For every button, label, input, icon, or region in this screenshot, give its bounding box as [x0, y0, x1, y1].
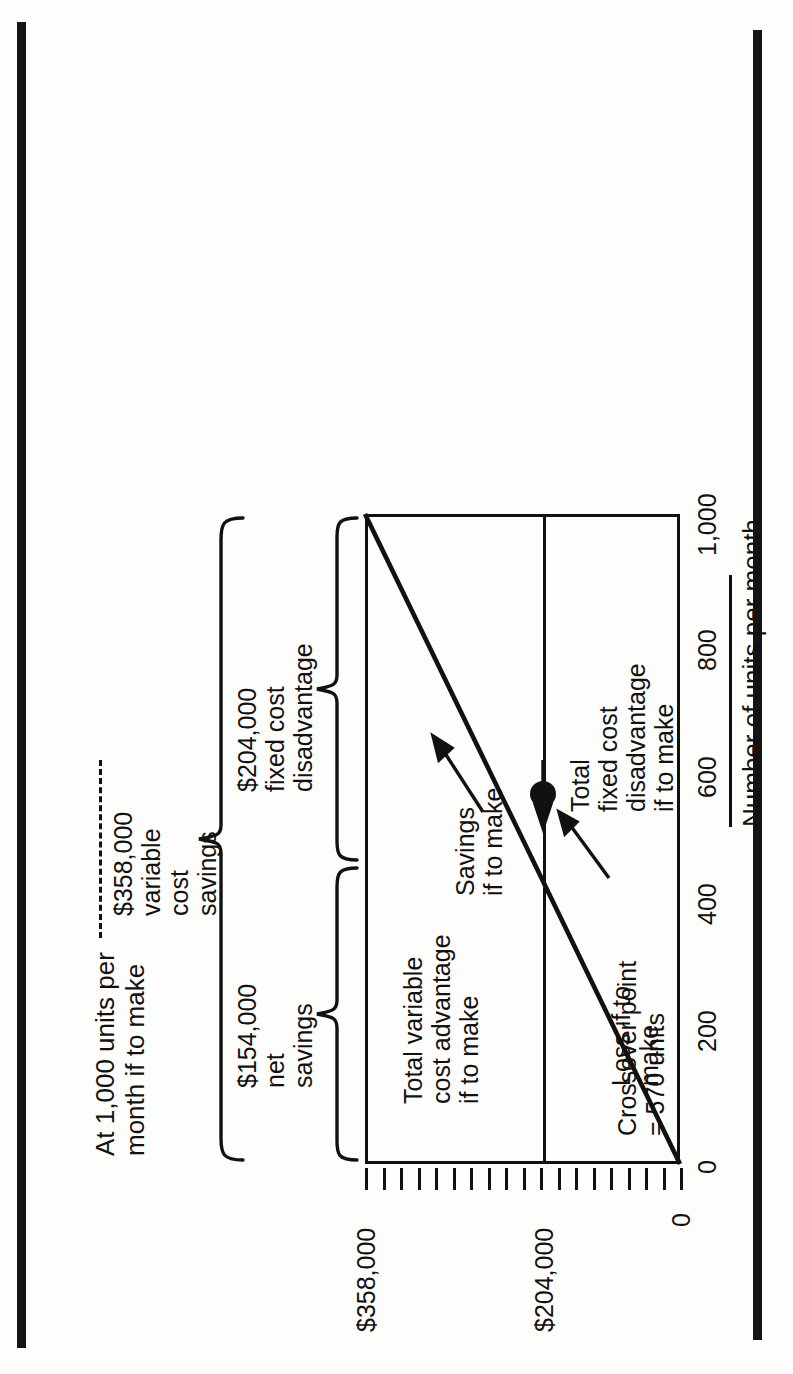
dollar-axis-tick	[540, 1168, 543, 1190]
dollar-axis-tick	[680, 1168, 683, 1190]
brace-fixed-label-line-1: $204,000	[233, 643, 261, 792]
annotation-loss-line-1: Loss if to	[607, 986, 635, 1086]
brace-total-label-line-4: savings	[193, 812, 221, 916]
dollar-axis-tick	[452, 1168, 455, 1190]
x-tick-label-800: 800	[695, 629, 720, 671]
dollar-axis-tick	[435, 1168, 438, 1190]
annotation-loss-line-2: make	[635, 986, 663, 1086]
brace-total-label-line-1: $358,000	[109, 812, 137, 916]
brace-net-label-line-2: net	[261, 984, 289, 1088]
dollar-axis-tick	[470, 1168, 473, 1190]
scan-edge-bar-left	[17, 22, 26, 1348]
dollar-axis-tick	[662, 1168, 665, 1190]
dollar-axis-tick	[400, 1168, 403, 1190]
annotation-tfcd-line-3: disadvantage	[622, 663, 650, 812]
header-note-dashed-leader	[99, 760, 102, 938]
dollar-axis-tick-rail	[365, 1168, 680, 1198]
dollar-axis-tick	[575, 1168, 578, 1190]
brace-fixed-label: $204,000 fixed cost disadvantage	[233, 643, 317, 792]
dollar-axis-tick	[522, 1168, 525, 1190]
brace-net-label-line-1: $154,000	[233, 984, 261, 1088]
dollar-axis-tick	[417, 1168, 420, 1190]
x-tick-label-200: 200	[695, 1010, 720, 1052]
x-tick-label-400: 400	[695, 883, 720, 925]
brace-fixed-cost-disadvantage	[315, 514, 359, 864]
x-tick-label-600: 600	[695, 756, 720, 798]
header-note: At 1,000 units per month if to make	[91, 952, 151, 1156]
brace-net-label-line-3: savings	[289, 984, 317, 1088]
dollar-axis-tick	[382, 1168, 385, 1190]
annotation-tvca-line-3: if to make	[455, 934, 483, 1104]
dollar-axis-tick	[557, 1168, 560, 1190]
brace-fixed-label-line-3: disadvantage	[289, 643, 317, 792]
annotation-tvca-line-1: Total variable	[399, 934, 427, 1104]
y-tick-label-204000: $204,000	[532, 1228, 557, 1332]
brace-net-label: $154,000 net savings	[233, 984, 317, 1088]
annotation-tfcd-line-1: Total	[566, 663, 594, 812]
annotation-total-variable-cost-advantage: Total variable cost advantage if to make	[399, 934, 483, 1104]
crossover-leader-arrow	[559, 812, 609, 878]
annotation-tfcd-line-4: if to make	[650, 663, 678, 812]
y-tick-label-358000: $358,000	[354, 1228, 379, 1332]
exhibit-figure: At 1,000 units per month if to make $358…	[47, 42, 747, 1332]
header-note-line-2: month if to make	[120, 952, 150, 1156]
dollar-axis-tick	[592, 1168, 595, 1190]
x-tick-label-1000: 1,000	[695, 493, 720, 556]
y-tick-label-0: 0	[669, 1213, 694, 1227]
annotation-savings-if-to-make: Savings if to make	[451, 788, 507, 896]
dollar-axis-tick	[627, 1168, 630, 1190]
dollar-axis-tick	[645, 1168, 648, 1190]
annotation-tfcd-line-2: fixed cost	[594, 663, 622, 812]
dollar-axis-tick	[610, 1168, 613, 1190]
brace-fixed-label-line-2: fixed cost	[261, 643, 289, 792]
x-tick-label-0: 0	[695, 1160, 720, 1174]
scanned-page: At 1,000 units per month if to make $358…	[0, 0, 793, 1374]
x-axis-title: Number of units per month	[737, 519, 768, 827]
dollar-axis-tick	[505, 1168, 508, 1190]
dollar-axis-tick	[487, 1168, 490, 1190]
x-axis-title-rule	[729, 575, 732, 827]
brace-total-label: $358,000 variable cost savings	[109, 812, 221, 916]
brace-total-label-line-3: cost	[165, 812, 193, 916]
annotation-savings-line-1: Savings	[451, 788, 479, 896]
annotation-tvca-line-2: cost advantage	[427, 934, 455, 1104]
annotation-loss-if-to-make: Loss if to make	[607, 986, 663, 1086]
header-note-line-1: At 1,000 units per	[91, 952, 121, 1156]
dollar-axis-tick	[365, 1168, 368, 1190]
annotation-total-fixed-cost-disadvantage: Total fixed cost disadvantage if to make	[566, 663, 678, 812]
brace-net-savings	[315, 864, 359, 1164]
brace-total-label-line-2: variable	[137, 812, 165, 916]
annotation-savings-line-2: if to make	[479, 788, 507, 896]
